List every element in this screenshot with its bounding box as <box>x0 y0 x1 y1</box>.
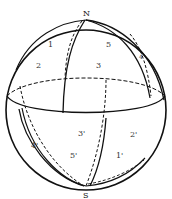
region-1p-label: 1' <box>116 151 123 160</box>
region-3p-label: 3' <box>78 129 85 138</box>
sphere-diagram: N S 1 5 2 3 4 3' 2' 4' 5' 1' <box>0 0 172 199</box>
south-pole-label: S <box>83 191 88 199</box>
region-4p-label: 4' <box>31 141 38 150</box>
region-5-label: 5 <box>106 40 111 49</box>
meridian-right-outer <box>86 20 164 100</box>
equator-front <box>7 96 165 113</box>
region-4-label: 4 <box>139 53 143 60</box>
region-3-label: 3 <box>96 61 101 70</box>
meridian-lower-left-dashed <box>20 86 84 186</box>
region-2p-label: 2' <box>130 130 137 139</box>
region-1-label: 1 <box>48 40 53 49</box>
meridian-lower-left-outer <box>19 109 84 186</box>
meridian-lower-center <box>90 118 106 186</box>
region-5p-label: 5' <box>70 151 77 160</box>
north-pole-label: N <box>83 9 90 18</box>
equator-back <box>7 78 165 96</box>
region-2-label: 2 <box>36 61 41 70</box>
